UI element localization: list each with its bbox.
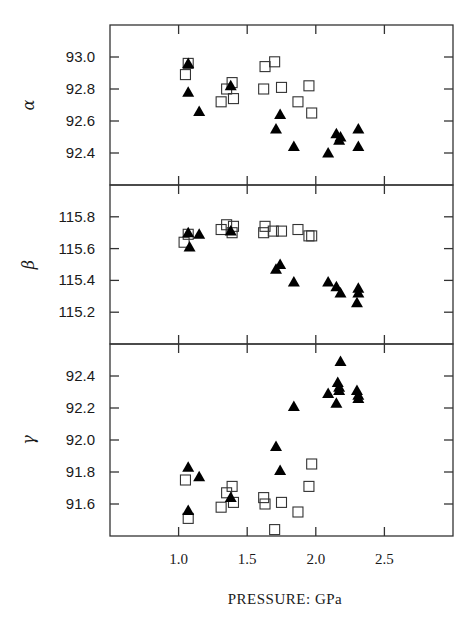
y-tick-label: 115.6 — [59, 240, 95, 257]
y-tick-label: 93.0 — [66, 48, 95, 65]
data-point-triangle — [193, 471, 205, 482]
data-point-triangle — [182, 504, 194, 515]
data-point-triangle — [270, 440, 282, 451]
data-point-square — [307, 459, 317, 469]
data-point-square — [260, 62, 270, 72]
data-point-triangle — [288, 400, 300, 411]
y-tick-label: 92.8 — [66, 80, 95, 97]
data-point-triangle — [322, 147, 334, 158]
data-point-triangle — [322, 276, 334, 287]
x-axis-title: PRESSURE: GPa — [228, 591, 342, 607]
y-tick-label: 115.8 — [59, 208, 95, 225]
data-point-triangle — [352, 141, 364, 152]
data-point-square — [180, 475, 190, 485]
y-tick-label: 92.2 — [66, 399, 95, 416]
y-tick-label: 92.6 — [66, 112, 95, 129]
data-point-triangle — [193, 105, 205, 116]
y-axis-label: β — [19, 260, 38, 270]
data-point-triangle — [274, 109, 286, 120]
data-point-square — [307, 108, 317, 118]
stacked-scatter-chart: 92.492.692.893.0α115.2115.4115.6115.8β91… — [0, 0, 472, 619]
data-point-triangle — [182, 227, 194, 238]
x-tick-label: 2.0 — [306, 551, 325, 567]
y-axis-label: α — [19, 99, 38, 110]
y-tick-label: 92.4 — [66, 367, 95, 384]
data-point-triangle — [334, 356, 346, 367]
y-tick-label: 92.0 — [66, 431, 95, 448]
y-axis-label: γ — [19, 435, 38, 445]
y-tick-label: 91.6 — [66, 495, 95, 512]
data-point-square — [293, 225, 303, 235]
panel-frame — [110, 25, 453, 185]
panel-alpha: 92.492.692.893.0α — [19, 25, 453, 185]
x-tick-label: 1.0 — [169, 551, 188, 567]
y-tick-label: 91.8 — [66, 463, 95, 480]
data-point-square — [293, 97, 303, 107]
x-tick-label: 1.5 — [238, 551, 257, 567]
data-point-triangle — [270, 123, 282, 134]
data-point-square — [228, 94, 238, 104]
data-point-square — [304, 231, 314, 241]
data-point-square — [304, 481, 314, 491]
data-point-triangle — [182, 57, 194, 68]
data-point-square — [270, 525, 280, 535]
data-point-square — [307, 231, 317, 241]
panel-gamma: 91.691.892.092.292.4γ — [19, 344, 453, 536]
data-point-triangle — [193, 228, 205, 239]
data-point-square — [293, 507, 303, 517]
data-point-square — [216, 502, 226, 512]
data-point-square — [277, 497, 287, 507]
y-tick-label: 115.2 — [59, 303, 95, 320]
data-point-triangle — [274, 464, 286, 475]
x-tick-label: 2.5 — [375, 551, 394, 567]
data-point-triangle — [352, 123, 364, 134]
panel-beta: 115.2115.4115.6115.8β — [19, 185, 453, 344]
data-point-triangle — [322, 388, 334, 399]
data-point-triangle — [182, 461, 194, 472]
data-point-square — [304, 81, 314, 91]
data-point-triangle — [288, 276, 300, 287]
data-point-triangle — [330, 397, 342, 408]
data-point-triangle — [184, 241, 196, 252]
y-tick-label: 115.4 — [59, 271, 95, 288]
data-point-triangle — [182, 86, 194, 97]
data-point-triangle — [225, 80, 237, 91]
data-point-triangle — [351, 297, 363, 308]
data-point-square — [259, 84, 269, 94]
data-point-square — [216, 97, 226, 107]
y-tick-label: 92.4 — [66, 144, 95, 161]
data-point-square — [277, 82, 287, 92]
data-point-triangle — [288, 141, 300, 152]
data-point-square — [270, 57, 280, 67]
data-point-square — [180, 70, 190, 80]
